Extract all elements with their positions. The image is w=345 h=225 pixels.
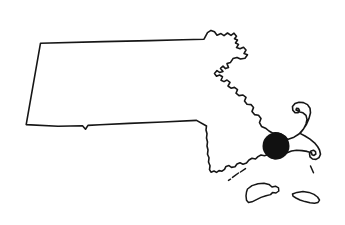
massachusetts-outline-map [0,0,345,225]
location-dot-marker[interactable] [263,133,290,160]
elizabeth-island-3 [229,179,231,180]
map-figure [0,0,345,225]
